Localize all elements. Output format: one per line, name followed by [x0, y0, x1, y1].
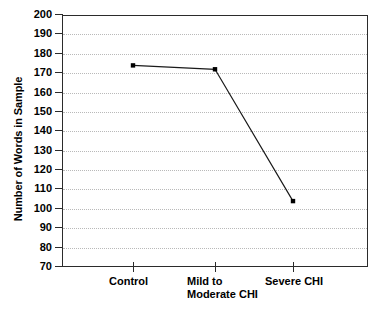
gridline [63, 228, 367, 229]
x-axis-tick-label: Mild to Moderate CHI [187, 275, 258, 301]
gridline [63, 209, 367, 210]
gridline [63, 112, 367, 113]
y-axis-tick-label: 110 [18, 183, 52, 194]
gridline [63, 73, 367, 74]
y-axis-tick-label: 100 [18, 203, 52, 214]
y-axis-tick-label: 120 [18, 164, 52, 175]
gridline [63, 151, 367, 152]
gridline [63, 54, 367, 55]
y-axis-tick-label: 160 [18, 87, 52, 98]
gridline [63, 93, 367, 94]
y-axis-tick-label: 150 [18, 106, 52, 117]
x-axis-tick [293, 262, 294, 272]
y-axis-tick-label: 140 [18, 125, 52, 136]
y-axis-tick-label: 190 [18, 28, 52, 39]
plot-area [62, 15, 368, 267]
y-axis-tick-label: 90 [18, 222, 52, 233]
gridline [63, 170, 367, 171]
x-axis-tick [133, 262, 134, 272]
gridline [63, 34, 367, 35]
gridline [63, 248, 367, 249]
x-axis-tick-label: Control [109, 275, 148, 288]
x-axis-tick [215, 262, 216, 272]
y-axis-tick-label: 130 [18, 145, 52, 156]
gridline [63, 131, 367, 132]
y-axis-tick-label: 80 [18, 242, 52, 253]
x-axis-tick-label: Severe CHI [265, 275, 323, 288]
gridline [63, 189, 367, 190]
y-axis-tick-label: 200 [18, 9, 52, 20]
y-axis-tick-label: 180 [18, 48, 52, 59]
y-axis-tick-label: 170 [18, 67, 52, 78]
y-axis-tick-label: 70 [18, 261, 52, 272]
line-chart-figure: Number of Words in Sample 20019018017016… [0, 0, 382, 311]
